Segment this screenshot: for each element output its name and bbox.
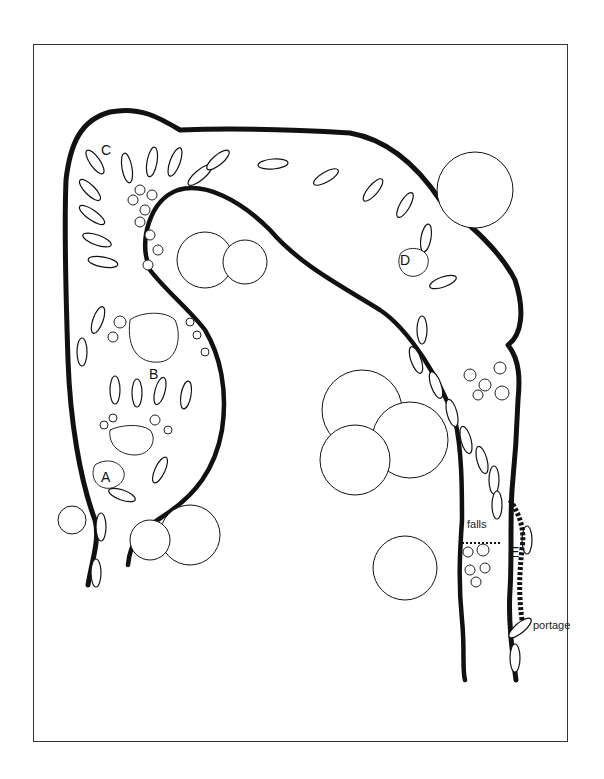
label-a: A — [101, 470, 110, 484]
river-map — [0, 0, 604, 779]
label-b: B — [149, 367, 158, 381]
label-d: D — [400, 253, 410, 267]
bushes — [58, 152, 513, 600]
label-e: E — [510, 545, 519, 559]
label-falls: falls — [467, 519, 487, 530]
label-c: C — [101, 143, 111, 157]
label-portage: portage — [533, 620, 570, 631]
